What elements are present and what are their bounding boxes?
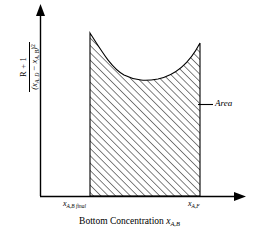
figure-container: R + 1 (xA, D − xA, B)2 xA,B final xA,F B… xyxy=(0,0,259,239)
x-tick-label-right: xA,F xyxy=(188,199,200,209)
shaded-area-region xyxy=(88,31,202,198)
y-axis xyxy=(36,4,45,196)
x-axis-title: Bottom Concentration xA,B xyxy=(0,216,259,227)
x-axis-title-sub: A,B xyxy=(170,220,180,227)
tick-left-sub: A,B final xyxy=(67,203,86,209)
plot-svg xyxy=(0,0,259,239)
x-axis-title-text: Bottom Concentration xyxy=(79,216,166,226)
x-tick-label-left: xA,B final xyxy=(63,199,86,209)
tick-right-sub: A,F xyxy=(192,203,200,209)
x-axis-arrow-icon xyxy=(234,192,246,201)
y-axis-arrow-icon xyxy=(36,4,45,16)
area-annotation-label: Area xyxy=(215,98,232,108)
